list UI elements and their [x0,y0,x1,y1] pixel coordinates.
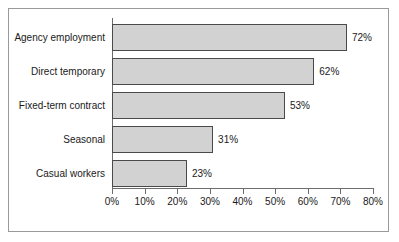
category-label-seasonal: Seasonal [0,135,105,145]
bar-value-direct-temporary: 62% [319,67,339,77]
bar-direct-temporary[interactable] [112,58,314,85]
x-tick-mark-60 [308,189,309,194]
category-label-casual-workers: Casual workers [0,169,105,179]
x-tick-mark-30 [210,189,211,194]
bar-seasonal[interactable] [112,126,213,153]
x-tick-label-80: 80% [353,197,393,207]
x-tick-mark-70 [340,189,341,194]
bar-fixed-term-contract[interactable] [112,92,285,119]
x-tick-mark-80 [373,189,374,194]
bar-row: 31% [112,126,373,153]
bar-row: 62% [112,58,373,85]
bar-value-casual-workers: 23% [192,169,212,179]
x-tick-mark-20 [177,189,178,194]
category-label-agency-employment: Agency employment [0,33,105,43]
bar-row: 53% [112,92,373,119]
bar-value-seasonal: 31% [218,135,238,145]
x-tick-mark-10 [145,189,146,194]
bar-chart-figure: Agency employment Direct temporary Fixed… [0,0,399,242]
bar-row: 72% [112,24,373,51]
bar-row: 23% [112,160,373,187]
category-label-fixed-term-contract: Fixed-term contract [0,101,105,111]
bar-value-fixed-term-contract: 53% [290,101,310,111]
bar-agency-employment[interactable] [112,24,347,51]
x-tick-mark-50 [275,189,276,194]
x-tick-mark-0 [112,189,113,194]
bar-value-agency-employment: 72% [352,33,372,43]
bar-casual-workers[interactable] [112,160,187,187]
x-tick-mark-40 [243,189,244,194]
category-label-direct-temporary: Direct temporary [0,67,105,77]
